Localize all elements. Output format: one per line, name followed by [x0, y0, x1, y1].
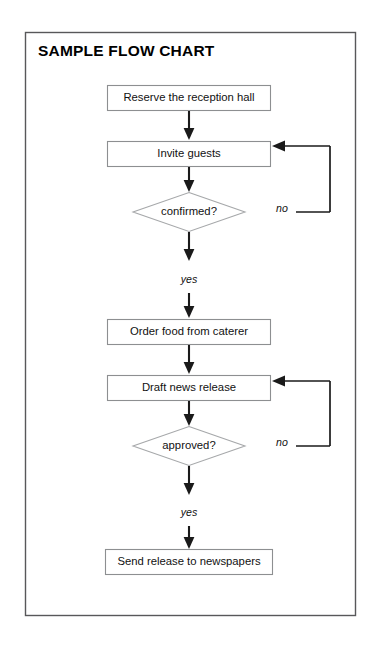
edge-label-no-confirmed: no: [276, 202, 288, 214]
node-invite-guests-label: Invite guests: [157, 147, 221, 159]
edge-label-no-approved: no: [276, 436, 288, 448]
node-draft-release-label: Draft news release: [142, 381, 236, 393]
edge-label-yes-approved: yes: [180, 506, 198, 518]
node-order-food-label: Order food from caterer: [130, 325, 248, 337]
flowchart-canvas: SAMPLE FLOW CHART Reserve the reception …: [0, 0, 373, 653]
node-approved-label: approved?: [162, 439, 215, 451]
node-confirmed-label: confirmed?: [161, 205, 217, 217]
edge-label-yes-confirmed: yes: [180, 273, 198, 285]
page-title: SAMPLE FLOW CHART: [38, 42, 215, 59]
flowchart-page: SAMPLE FLOW CHART Reserve the reception …: [0, 0, 373, 653]
node-reserve-hall-label: Reserve the reception hall: [123, 91, 254, 103]
node-send-release-label: Send release to newspapers: [117, 555, 261, 567]
